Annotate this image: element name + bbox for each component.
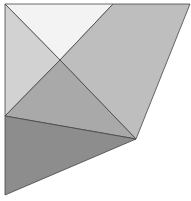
geometric-diagram — [0, 0, 191, 201]
diagram-regions — [5, 4, 190, 195]
